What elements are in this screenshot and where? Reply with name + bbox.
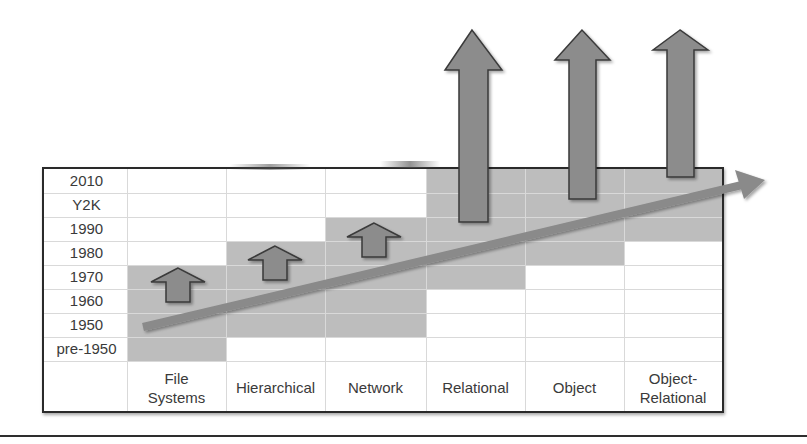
gridline	[44, 313, 722, 314]
gridline	[44, 289, 722, 290]
col-label-object-relational: Object- Relational	[624, 362, 722, 413]
gridline	[44, 337, 722, 338]
bottom-rule	[0, 435, 807, 437]
col-label-object: Object	[525, 362, 624, 413]
row-label-1980: 1980	[44, 241, 129, 265]
shade-object-relational	[624, 169, 722, 241]
shade-relational	[426, 169, 525, 289]
shade-network	[325, 217, 426, 337]
col-label-relational: Relational	[426, 362, 525, 413]
row-label-pre-1950: pre-1950	[44, 337, 129, 361]
gridline	[44, 265, 722, 266]
row-label-1950: 1950	[44, 313, 129, 337]
row-label-2010: 2010	[44, 169, 129, 193]
gridline	[44, 241, 722, 242]
col-label-network: Network	[325, 362, 426, 413]
row-label-1990: 1990	[44, 217, 129, 241]
col-label-hierarchical: Hierarchical	[226, 362, 325, 413]
up-arrow-icon-object-relational	[653, 30, 708, 177]
row-label-y2k: Y2K	[44, 193, 129, 217]
database-evolution-diagram: 2010 Y2K 1990 1980 1970 1960 1950 pre-19…	[0, 0, 807, 444]
timeline-grid: 2010 Y2K 1990 1980 1970 1960 1950 pre-19…	[42, 167, 724, 413]
gridline	[44, 217, 722, 218]
row-label-1960: 1960	[44, 289, 129, 313]
gridline	[44, 193, 722, 194]
col-label-file-systems: File Systems	[127, 362, 226, 413]
row-label-1970: 1970	[44, 265, 129, 289]
